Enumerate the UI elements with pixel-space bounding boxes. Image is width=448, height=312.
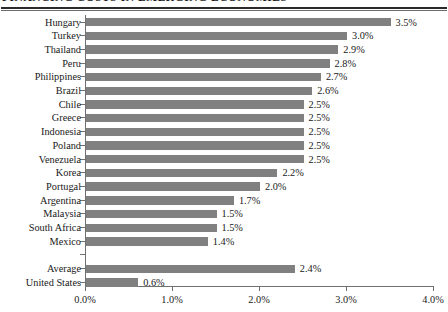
bar-row-label: Brazil: [0, 84, 81, 98]
bar-row-label: South Africa: [0, 221, 81, 235]
bar: [86, 18, 391, 26]
bar-row-label: Malaysia: [0, 207, 81, 221]
bar-row-label: Thailand: [0, 43, 81, 57]
bar-value-label: 2.5%: [309, 111, 330, 125]
bar-value-label: 2.8%: [335, 57, 356, 71]
bar-value-label: 2.5%: [309, 98, 330, 112]
header-rule-thin: [1, 10, 447, 11]
bar-value-label: 0.6%: [143, 276, 164, 290]
bar-value-label: 2.2%: [282, 166, 303, 180]
bar-value-label: 2.5%: [309, 139, 330, 153]
bar-row: Brazil2.6%: [0, 84, 448, 98]
bar-row-label: Hungary: [0, 16, 81, 30]
bar-value-label: 2.5%: [309, 125, 330, 139]
bar: [86, 45, 338, 53]
bar-value-label: 3.5%: [396, 16, 417, 30]
bar-row-label: Korea: [0, 166, 81, 180]
bar-row: Poland2.5%: [0, 139, 448, 153]
bar-row: Indonesia2.5%: [0, 125, 448, 139]
bar-row-label: Peru: [0, 57, 81, 71]
bar: [86, 87, 312, 95]
bar-value-label: 1.4%: [213, 235, 234, 249]
bar: [86, 100, 304, 108]
bar-row: Philippines2.7%: [0, 70, 448, 84]
chart-title-text: FINANCING COSTS IN EMERGING ECONOMIES: [0, 0, 448, 4]
bar-row-label: Poland: [0, 139, 81, 153]
bar-row-label: Turkey: [0, 29, 81, 43]
bar: [86, 59, 330, 67]
bar-row: Average2.4%: [0, 262, 448, 276]
bar: [86, 32, 347, 40]
x-axis-tick-label: 3.0%: [316, 293, 376, 306]
bar-row-label: United States: [0, 276, 81, 290]
y-axis-tick: [80, 254, 85, 255]
bar: [86, 196, 234, 204]
bar-row: United States0.6%: [0, 276, 448, 290]
bar-row: Peru2.8%: [0, 57, 448, 71]
bar: [86, 265, 295, 273]
x-axis-tick: [172, 286, 173, 291]
bar-row-label: Venezuela: [0, 153, 81, 167]
bar-row: Thailand2.9%: [0, 43, 448, 57]
bar-row: Chile2.5%: [0, 98, 448, 112]
bar: [86, 278, 138, 286]
bar: [86, 155, 304, 163]
bar: [86, 237, 208, 245]
bar-value-label: 1.7%: [239, 194, 260, 208]
bar-row: Hungary3.5%: [0, 16, 448, 30]
bar-value-label: 2.4%: [300, 262, 321, 276]
chart-page: FINANCING COSTS IN EMERGING ECONOMIES Hu…: [0, 0, 448, 312]
x-axis-tick-label: 0.0%: [55, 293, 115, 306]
bar-row-label: Philippines: [0, 70, 81, 84]
bar-value-label: 2.7%: [326, 70, 347, 84]
x-axis-tick-label: 1.0%: [142, 293, 202, 306]
bar-row: Korea2.2%: [0, 166, 448, 180]
bar-row: Turkey3.0%: [0, 29, 448, 43]
x-axis-tick: [433, 286, 434, 291]
chart-title-clipped: FINANCING COSTS IN EMERGING ECONOMIES: [0, 0, 448, 5]
bar-row-spacer: [0, 248, 448, 262]
bar-row-label: Indonesia: [0, 125, 81, 139]
bar-row: Portugal2.0%: [0, 180, 448, 194]
bar: [86, 182, 260, 190]
bar-value-label: 1.5%: [222, 221, 243, 235]
x-axis-tick: [346, 286, 347, 291]
x-axis-tick: [259, 286, 260, 291]
bar-value-label: 2.0%: [265, 180, 286, 194]
bar-value-label: 2.9%: [343, 43, 364, 57]
x-axis-tick-label: 2.0%: [229, 293, 289, 306]
bar-row-label: Greece: [0, 111, 81, 125]
x-axis-tick: [85, 286, 86, 291]
bar-row: Venezuela2.5%: [0, 153, 448, 167]
bar: [86, 73, 321, 81]
bar-value-label: 2.5%: [309, 153, 330, 167]
bar-row-label: Argentina: [0, 194, 81, 208]
bar-row: South Africa1.5%: [0, 221, 448, 235]
bar-value-label: 2.6%: [317, 84, 338, 98]
bar-row: Mexico1.4%: [0, 235, 448, 249]
bar-row-label: Chile: [0, 98, 81, 112]
bar-row: Greece2.5%: [0, 111, 448, 125]
bar: [86, 169, 277, 177]
bar: [86, 128, 304, 136]
bar: [86, 210, 217, 218]
bar-row-label: Portugal: [0, 180, 81, 194]
bar: [86, 114, 304, 122]
header-rule-thick: [1, 7, 447, 9]
plot-area: Hungary3.5%Turkey3.0%Thailand2.9%Peru2.8…: [0, 14, 448, 312]
bar: [86, 141, 304, 149]
bar-value-label: 3.0%: [352, 29, 373, 43]
x-axis-tick-label: 4.0%: [403, 293, 448, 306]
bar: [86, 224, 217, 232]
bar-value-label: 1.5%: [222, 207, 243, 221]
bar-row-label: Average: [0, 262, 81, 276]
bar-row: Malaysia1.5%: [0, 207, 448, 221]
bar-row: Argentina1.7%: [0, 194, 448, 208]
bar-row-label: Mexico: [0, 235, 81, 249]
